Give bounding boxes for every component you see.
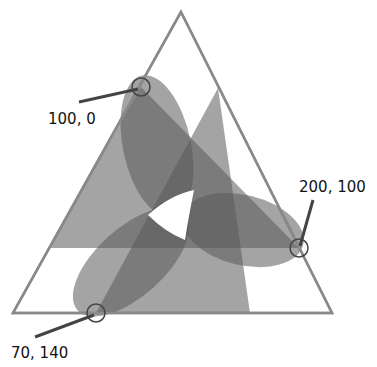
triangle-diagram: 100, 0 200, 100 70, 140 <box>0 0 377 367</box>
point-label-p2: 200, 100 <box>299 178 366 196</box>
point-label-p1: 100, 0 <box>48 110 96 128</box>
leader-line-p3 <box>35 315 94 337</box>
point-label-p3: 70, 140 <box>11 344 68 362</box>
